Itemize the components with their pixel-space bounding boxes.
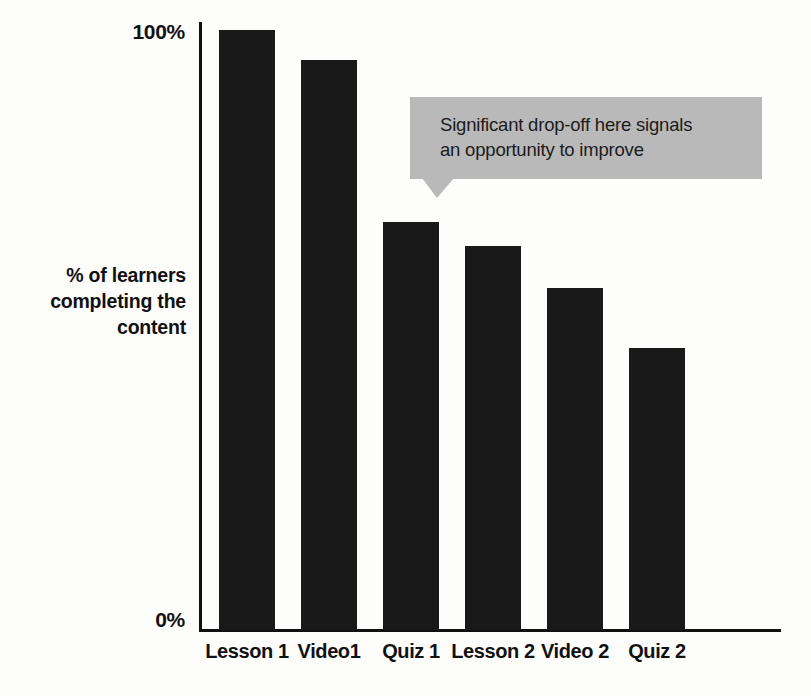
annotation-callout-text: Significant drop-off here signals an opp… xyxy=(440,112,752,162)
chart-page: 100% 0% % of learners completing the con… xyxy=(0,0,811,696)
y-axis-line xyxy=(199,22,202,632)
y-axis-tick-100: 100% xyxy=(55,20,185,44)
y-axis-tick-0: 0% xyxy=(55,608,185,632)
bar-quiz-2 xyxy=(629,348,685,630)
y-axis-title: % of learners completing the content xyxy=(10,262,186,340)
bar-quiz-1 xyxy=(383,222,439,630)
annotation-line-1: Significant drop-off here signals xyxy=(440,114,692,135)
y-axis-title-line-2: completing the xyxy=(10,288,186,314)
bar-chart-plot-area: 100% 0% % of learners completing the con… xyxy=(0,0,811,696)
bar-lesson-2 xyxy=(465,246,521,630)
bar-video-1 xyxy=(301,60,357,630)
y-axis-title-line-3: content xyxy=(10,314,186,340)
annotation-line-2: an opportunity to improve xyxy=(440,139,644,160)
y-axis-title-line-1: % of learners xyxy=(10,262,186,288)
bar-video-2 xyxy=(547,288,603,630)
annotation-callout-box: Significant drop-off here signals an opp… xyxy=(410,97,762,179)
bar-lesson-1 xyxy=(219,30,275,630)
annotation-callout-tail xyxy=(422,178,454,198)
x-axis-tick-quiz-2: Quiz 2 xyxy=(587,640,727,663)
